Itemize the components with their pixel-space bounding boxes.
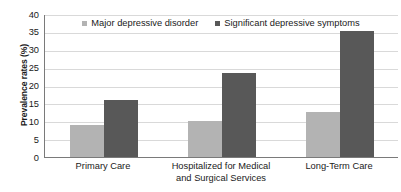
bar xyxy=(222,73,256,157)
y-axis-tick-label: 30 xyxy=(3,46,39,55)
y-axis-tick-label: 40 xyxy=(3,11,39,20)
legend-label: Major depressive disorder xyxy=(91,18,198,28)
legend-item[interactable]: Significant depressive symptoms xyxy=(215,18,359,28)
x-axis-label-line: and Surgical Services xyxy=(162,173,280,185)
y-axis-tick-label: 35 xyxy=(3,28,39,37)
chart-legend: Major depressive disorderSignificant dep… xyxy=(44,18,398,28)
y-axis-tick-label: 20 xyxy=(3,82,39,91)
x-axis-category-label: Long-Term Care xyxy=(280,161,398,173)
plot-area xyxy=(44,15,398,158)
y-axis-tick-label: 25 xyxy=(3,64,39,73)
x-axis-category-label: Primary Care xyxy=(44,161,162,173)
x-axis-category-label: Hospitalized for Medicaland Surgical Ser… xyxy=(162,161,280,184)
legend-swatch-icon xyxy=(82,21,87,26)
gridline xyxy=(45,158,398,159)
bar xyxy=(104,100,138,157)
legend-label: Significant depressive symptoms xyxy=(224,18,359,28)
legend-swatch-icon xyxy=(215,21,220,26)
y-axis-tick-labels: 4035302520151050 xyxy=(0,0,44,192)
x-axis-label-line: Hospitalized for Medical xyxy=(162,161,280,173)
y-axis-tick-label: 5 xyxy=(3,136,39,145)
bar xyxy=(340,31,374,157)
legend-item[interactable]: Major depressive disorder xyxy=(82,18,198,28)
bar xyxy=(188,121,222,157)
bar xyxy=(306,112,340,157)
bars-layer xyxy=(45,15,398,157)
x-axis-label-line: Long-Term Care xyxy=(280,161,398,173)
y-axis-tick-label: 0 xyxy=(3,154,39,163)
bar xyxy=(70,125,104,157)
x-axis-label-line: Primary Care xyxy=(44,161,162,173)
bar-chart: Prevalence rates (%) 4035302520151050 Ma… xyxy=(0,0,401,192)
x-axis-category-labels: Primary CareHospitalized for Medicaland … xyxy=(44,161,398,192)
y-axis-tick-label: 10 xyxy=(3,118,39,127)
y-axis-tick-label: 15 xyxy=(3,100,39,109)
